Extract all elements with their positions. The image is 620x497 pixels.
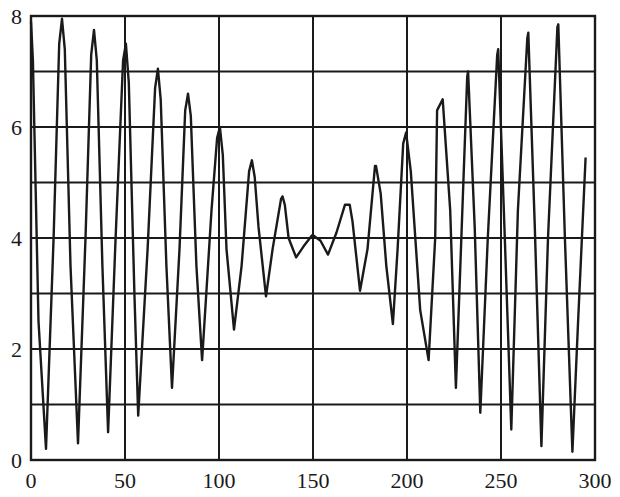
y-tick-label: 2 — [11, 337, 22, 362]
y-tick-label: 6 — [11, 115, 22, 140]
x-tick-label: 0 — [26, 468, 37, 493]
x-axis-tick-labels: 050100150200250300 — [26, 468, 612, 493]
y-axis-tick-labels: 02468 — [11, 4, 22, 473]
x-tick-label: 50 — [114, 468, 136, 493]
x-tick-label: 200 — [391, 468, 424, 493]
x-tick-label: 250 — [485, 468, 518, 493]
y-tick-label: 8 — [11, 4, 22, 29]
x-tick-label: 150 — [297, 468, 330, 493]
y-tick-label: 4 — [11, 226, 22, 251]
x-tick-label: 300 — [579, 468, 612, 493]
x-tick-label: 100 — [203, 468, 236, 493]
signal-line — [31, 19, 586, 452]
y-tick-label: 0 — [11, 448, 22, 473]
line-chart: 050100150200250300 02468 — [0, 0, 620, 497]
